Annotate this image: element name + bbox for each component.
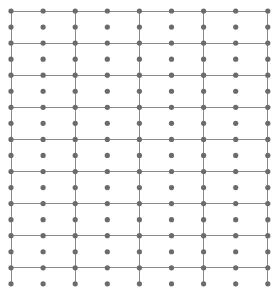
lattice-dot bbox=[169, 185, 174, 190]
lattice-dot bbox=[105, 185, 110, 190]
lattice-dot bbox=[8, 201, 13, 206]
lattice-dot bbox=[41, 217, 46, 222]
lattice-dot bbox=[8, 73, 13, 78]
lattice-dot bbox=[169, 217, 174, 222]
lattice-dot bbox=[169, 265, 174, 270]
dot-grid-canvas bbox=[0, 0, 280, 293]
lattice-dot bbox=[265, 201, 270, 206]
lattice-dot bbox=[169, 233, 174, 238]
lattice-dot bbox=[41, 105, 46, 110]
lattice-dot bbox=[41, 169, 46, 174]
lattice-dot bbox=[105, 265, 110, 270]
lattice-dot bbox=[265, 57, 270, 62]
lattice-dot bbox=[41, 249, 46, 254]
lattice-dot bbox=[201, 41, 206, 46]
lattice-dot bbox=[233, 233, 238, 238]
lattice-dot bbox=[137, 121, 142, 126]
lattice-dot bbox=[201, 233, 206, 238]
lattice-dot bbox=[105, 137, 110, 142]
lattice-dot bbox=[233, 217, 238, 222]
lattice-dot bbox=[201, 24, 206, 29]
lattice-dot bbox=[201, 8, 206, 13]
lattice-dot bbox=[73, 24, 78, 29]
lattice-dot bbox=[169, 73, 174, 78]
lattice-dot bbox=[169, 137, 174, 142]
lattice-dot bbox=[233, 89, 238, 94]
lattice-dot bbox=[73, 121, 78, 126]
lattice-dot bbox=[105, 169, 110, 174]
lattice-dot bbox=[201, 105, 206, 110]
lattice-dot bbox=[41, 41, 46, 46]
lattice-dot bbox=[73, 57, 78, 62]
lattice-dot bbox=[201, 265, 206, 270]
lattice-dot bbox=[8, 217, 13, 222]
lattice-dot bbox=[73, 105, 78, 110]
lattice-dot bbox=[105, 217, 110, 222]
lattice-dot bbox=[41, 137, 46, 142]
lattice-dot bbox=[8, 137, 13, 142]
lattice-dot bbox=[169, 8, 174, 13]
lattice-dot bbox=[233, 185, 238, 190]
lattice-dot bbox=[73, 217, 78, 222]
lattice-dot bbox=[233, 201, 238, 206]
lattice-dot bbox=[41, 185, 46, 190]
lattice-dot bbox=[201, 201, 206, 206]
lattice-dot bbox=[201, 249, 206, 254]
lattice-dot bbox=[233, 8, 238, 13]
lattice-dot bbox=[73, 185, 78, 190]
lattice-dot bbox=[105, 105, 110, 110]
lattice-dot bbox=[233, 169, 238, 174]
lattice-dot bbox=[41, 8, 46, 13]
lattice-dot bbox=[201, 89, 206, 94]
lattice-dot bbox=[137, 201, 142, 206]
lattice-dot bbox=[137, 185, 142, 190]
lattice-dot bbox=[201, 73, 206, 78]
lattice-dot bbox=[73, 281, 78, 286]
lattice-dot bbox=[8, 105, 13, 110]
lattice-dot bbox=[105, 73, 110, 78]
lattice-dot bbox=[105, 249, 110, 254]
lattice-dot bbox=[105, 281, 110, 286]
lattice-dot bbox=[41, 121, 46, 126]
lattice-dot bbox=[233, 249, 238, 254]
lattice-dot bbox=[169, 89, 174, 94]
lattice-dot bbox=[265, 281, 270, 286]
lattice-dot bbox=[265, 89, 270, 94]
lattice-dot bbox=[73, 73, 78, 78]
lattice-dot bbox=[201, 185, 206, 190]
lattice-dot bbox=[233, 105, 238, 110]
lattice-dot bbox=[233, 137, 238, 142]
lattice-dot bbox=[137, 217, 142, 222]
lattice-dot bbox=[265, 249, 270, 254]
dot-grid-figure bbox=[0, 0, 280, 293]
lattice-dot bbox=[137, 265, 142, 270]
lattice-dot bbox=[201, 281, 206, 286]
lattice-dot bbox=[233, 73, 238, 78]
lattice-dot bbox=[8, 265, 13, 270]
lattice-dot bbox=[233, 121, 238, 126]
lattice-dot bbox=[105, 89, 110, 94]
lattice-dot bbox=[265, 153, 270, 158]
lattice-dot bbox=[73, 233, 78, 238]
lattice-dot bbox=[105, 24, 110, 29]
lattice-dot bbox=[105, 153, 110, 158]
lattice-dot bbox=[8, 57, 13, 62]
lattice-dot bbox=[73, 249, 78, 254]
lattice-dot bbox=[137, 105, 142, 110]
lattice-dot bbox=[41, 233, 46, 238]
lattice-dot bbox=[8, 41, 13, 46]
lattice-dot bbox=[265, 185, 270, 190]
lattice-dot bbox=[265, 8, 270, 13]
lattice-dot bbox=[8, 169, 13, 174]
lattice-dot bbox=[8, 281, 13, 286]
lattice-dot bbox=[201, 57, 206, 62]
lattice-dot bbox=[265, 73, 270, 78]
lattice-dot bbox=[265, 137, 270, 142]
lattice-dot bbox=[137, 281, 142, 286]
lattice-dot bbox=[8, 185, 13, 190]
lattice-dot bbox=[169, 105, 174, 110]
lattice-dot bbox=[73, 169, 78, 174]
lattice-dot bbox=[169, 281, 174, 286]
lattice-dot bbox=[8, 24, 13, 29]
lattice-dot bbox=[73, 153, 78, 158]
